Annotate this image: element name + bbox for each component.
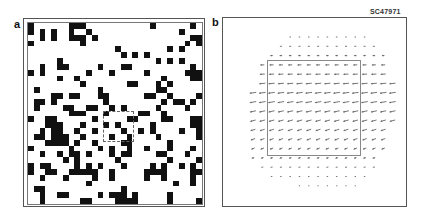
solid-region-of-interest: [267, 60, 361, 156]
arrow-head-icon: [371, 83, 373, 85]
arrow-head-icon: [260, 64, 262, 66]
arrow-head-icon: [298, 55, 300, 57]
arrow-head-icon: [363, 64, 365, 66]
arrow-head-icon: [270, 55, 272, 57]
arrow-head-icon: [354, 55, 356, 57]
arrow-head-icon: [371, 73, 373, 75]
arrow-head-icon: [380, 83, 382, 85]
arrow-head-icon: [280, 55, 282, 57]
arrow-head-icon: [362, 73, 364, 75]
arrow-head-icon: [390, 83, 392, 85]
arrow-head-icon: [372, 64, 374, 66]
arrow-head-icon: [308, 55, 310, 57]
arrow-head-icon: [362, 83, 364, 85]
arrow-head-icon: [381, 73, 383, 75]
arrow-head-icon: [317, 55, 319, 57]
arrow-head-icon: [326, 55, 328, 57]
arrow-head-icon: [259, 83, 261, 85]
arrow-head-icon: [363, 55, 365, 57]
arrow-head-icon: [289, 55, 291, 57]
arrow-head-icon: [373, 55, 375, 57]
arrow-head-icon: [381, 64, 383, 66]
arrow-head-icon: [345, 55, 347, 57]
arrow-head-icon: [260, 73, 262, 75]
arrow-head-icon: [335, 55, 337, 57]
arrow-head-icon: [382, 55, 384, 57]
